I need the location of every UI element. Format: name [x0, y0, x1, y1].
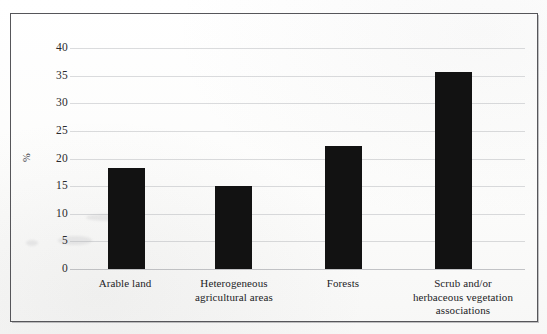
y-tick-label: 40 [40, 42, 68, 54]
x-label-heterogeneous-agricultural-areas: Heterogeneous agricultural areas [174, 277, 294, 304]
bar-heterogeneous-agricultural-areas [215, 186, 252, 269]
x-label-scrub-herbaceous-vegetation: Scrub and/or herbaceous vegetation assoc… [388, 277, 538, 318]
figure-container: % 40 35 30 25 20 15 10 5 0 Arable land H… [0, 0, 547, 334]
bar-arable-land [108, 168, 145, 269]
x-label-arable-land: Arable land [65, 277, 185, 291]
x-label-line: herbaceous vegetation [388, 291, 538, 305]
y-tick-label: 5 [40, 236, 68, 248]
y-tick-label: 10 [40, 208, 68, 220]
y-axis-title: % [21, 153, 32, 162]
gridline-0-baseline [70, 269, 525, 270]
y-tick-label: 30 [40, 98, 68, 110]
y-tick-label: 25 [40, 125, 68, 137]
y-tick-label: 15 [40, 180, 68, 192]
x-axis-category-labels: Arable land Heterogeneous agricultural a… [70, 277, 525, 323]
plot-area [70, 48, 525, 269]
y-tick-label: 0 [40, 263, 68, 275]
y-tick-label: 35 [40, 70, 68, 82]
y-tick-label: 20 [40, 153, 68, 165]
bar-forests [325, 146, 362, 269]
x-label-line: Arable land [65, 277, 185, 291]
x-label-line: Scrub and/or [388, 277, 538, 291]
gridline-40 [70, 48, 525, 49]
x-label-forests: Forests [283, 277, 403, 291]
y-axis-tick-labels: 40 35 30 25 20 15 10 5 0 [36, 48, 68, 269]
bar-scrub-herbaceous-vegetation [435, 72, 472, 269]
x-label-line: Heterogeneous [174, 277, 294, 291]
x-label-line: associations [388, 304, 538, 318]
x-label-line: Forests [283, 277, 403, 291]
x-label-line: agricultural areas [174, 291, 294, 305]
